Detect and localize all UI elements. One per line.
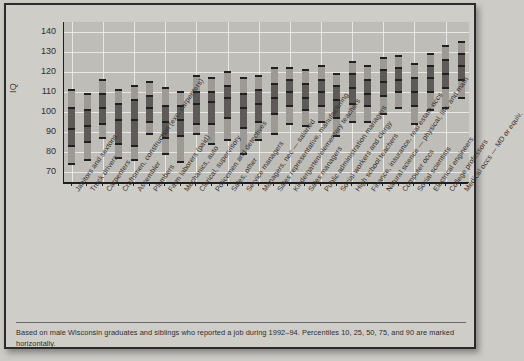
x-axis-tick-mark xyxy=(71,182,72,186)
gridline-horizontal xyxy=(64,112,469,113)
y-axis-tick-label: 70 xyxy=(28,166,56,176)
percentile-marker-10 xyxy=(99,137,106,138)
x-axis-tick-mark xyxy=(211,182,212,186)
percentile-marker-50 xyxy=(208,101,215,102)
x-axis-tick-mark xyxy=(133,182,134,186)
percentile-marker-50 xyxy=(364,93,371,94)
x-axis-tick-mark xyxy=(180,182,181,186)
percentile-marker-75 xyxy=(131,99,138,100)
chart-container: IQ 708090100110120130140 Janitors and se… xyxy=(6,5,474,347)
percentile-marker-25 xyxy=(146,121,153,122)
percentile-marker-25 xyxy=(427,91,434,92)
percentile-marker-90 xyxy=(68,89,75,90)
percentile-marker-75 xyxy=(255,89,262,90)
percentile-marker-25 xyxy=(364,105,371,106)
percentile-marker-75 xyxy=(162,105,169,106)
interquartile-box xyxy=(427,66,434,92)
percentile-marker-50 xyxy=(115,119,122,120)
percentile-marker-75 xyxy=(442,59,449,60)
x-axis-tick-labels: Janitors and sextonsTruck driversCarpent… xyxy=(6,186,474,311)
percentile-marker-25 xyxy=(411,105,418,106)
percentile-marker-75 xyxy=(68,107,75,108)
percentile-marker-10 xyxy=(146,133,153,134)
percentile-marker-75 xyxy=(115,103,122,104)
y-axis-tick-labels: 708090100110120130140 xyxy=(24,5,56,205)
percentile-marker-75 xyxy=(286,79,293,80)
percentile-marker-10 xyxy=(458,97,465,98)
percentile-marker-75 xyxy=(458,53,465,54)
percentile-marker-90 xyxy=(395,55,402,56)
y-axis-label: IQ xyxy=(8,83,18,93)
percentile-marker-90 xyxy=(208,77,215,78)
percentile-marker-50 xyxy=(224,97,231,98)
x-axis-tick-mark xyxy=(460,182,461,186)
percentile-marker-25 xyxy=(380,95,387,96)
interquartile-box xyxy=(224,86,231,118)
percentile-marker-50 xyxy=(458,65,465,66)
percentile-marker-25 xyxy=(240,127,247,128)
percentile-marker-75 xyxy=(380,69,387,70)
percentile-marker-10 xyxy=(193,133,200,134)
percentile-marker-50 xyxy=(442,73,449,74)
percentile-marker-90 xyxy=(84,93,91,94)
percentile-marker-75 xyxy=(224,85,231,86)
percentile-marker-75 xyxy=(271,83,278,84)
percentile-marker-50 xyxy=(193,103,200,104)
percentile-marker-50 xyxy=(146,107,153,108)
y-axis-tick-label: 110 xyxy=(28,86,56,96)
percentile-marker-10 xyxy=(162,153,169,154)
percentile-marker-75 xyxy=(99,93,106,94)
percentile-marker-25 xyxy=(271,113,278,114)
percentile-marker-25 xyxy=(208,123,215,124)
percentile-marker-75 xyxy=(146,95,153,96)
x-axis-tick-mark xyxy=(398,182,399,186)
percentile-marker-25 xyxy=(131,145,138,146)
percentile-marker-75 xyxy=(84,109,91,110)
interquartile-box xyxy=(271,84,278,114)
percentile-marker-75 xyxy=(427,65,434,66)
percentile-marker-90 xyxy=(255,75,262,76)
percentile-marker-25 xyxy=(177,135,184,136)
gridline-horizontal xyxy=(64,32,469,33)
percentile-marker-90 xyxy=(302,69,309,70)
percentile-marker-90 xyxy=(99,79,106,80)
figure-panel: IQ 708090100110120130140 Janitors and se… xyxy=(4,3,476,349)
interquartile-box xyxy=(240,94,247,128)
percentile-marker-90 xyxy=(146,81,153,82)
y-axis-tick-label: 80 xyxy=(28,146,56,156)
percentile-marker-50 xyxy=(395,79,402,80)
x-axis-tick-mark xyxy=(227,182,228,186)
percentile-marker-90 xyxy=(380,57,387,58)
note-divider xyxy=(16,322,466,323)
x-axis-tick-mark xyxy=(273,182,274,186)
percentile-marker-50 xyxy=(349,87,356,88)
x-axis-tick-mark xyxy=(351,182,352,186)
percentile-marker-25 xyxy=(115,143,122,144)
percentile-marker-75 xyxy=(411,77,418,78)
x-axis-tick-mark xyxy=(258,182,259,186)
x-axis-tick-mark xyxy=(118,182,119,186)
interquartile-box xyxy=(131,100,138,146)
interquartile-box xyxy=(99,94,106,124)
percentile-marker-50 xyxy=(84,125,91,126)
x-axis-tick-mark xyxy=(164,182,165,186)
percentile-marker-10 xyxy=(349,121,356,122)
gridline-horizontal xyxy=(64,92,469,93)
percentile-marker-90 xyxy=(115,89,122,90)
percentile-marker-10 xyxy=(271,133,278,134)
gridline-horizontal xyxy=(64,72,469,73)
box-whisker-bar xyxy=(162,22,169,182)
y-axis-tick-label: 140 xyxy=(28,26,56,36)
figure-note: Based on male Wisconsin graduates and si… xyxy=(16,327,468,349)
percentile-marker-10 xyxy=(286,123,293,124)
x-axis-tick-mark xyxy=(242,182,243,186)
x-axis-tick-mark xyxy=(320,182,321,186)
percentile-marker-90 xyxy=(286,67,293,68)
percentile-marker-25 xyxy=(84,141,91,142)
percentile-marker-25 xyxy=(318,105,325,106)
x-axis-tick-mark xyxy=(429,182,430,186)
percentile-marker-25 xyxy=(286,105,293,106)
percentile-marker-75 xyxy=(240,93,247,94)
percentile-marker-90 xyxy=(442,45,449,46)
percentile-marker-50 xyxy=(99,107,106,108)
